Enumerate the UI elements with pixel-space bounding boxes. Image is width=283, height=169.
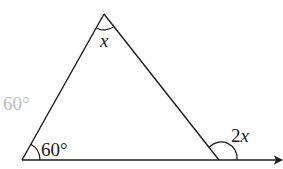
apex-angle-label: x <box>99 30 109 51</box>
left-angle-arc <box>31 144 40 160</box>
exterior-angle-label: 2x <box>231 125 250 146</box>
triangle-diagram: x 60° 2x 60° <box>0 0 283 169</box>
left-angle-label: 60° <box>41 139 68 160</box>
right-side <box>104 14 219 160</box>
faded-side-label: 60° <box>3 93 30 114</box>
